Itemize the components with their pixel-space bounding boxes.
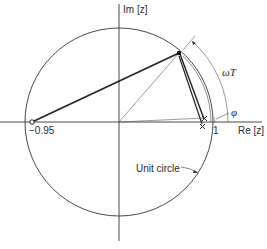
phi-arc	[214, 117, 215, 122]
real-axis-label: Re [z]	[238, 125, 264, 136]
one-value-label: 1	[213, 125, 219, 136]
pole-vector-lower	[179, 56, 202, 124]
imag-axis-label: Im [z]	[123, 4, 148, 15]
phi-label: φ	[231, 106, 237, 118]
zero-marker	[30, 120, 34, 124]
pole-vector-upper	[180, 54, 204, 119]
phi-leader	[216, 113, 229, 119]
unit-circle-label: Unit circle	[136, 163, 180, 174]
zero-value-label: −0.95	[29, 125, 55, 136]
pole-marker-lower	[200, 124, 205, 129]
radius-line	[119, 53, 179, 122]
omega-t-label: ωT	[222, 66, 237, 78]
z-plane-diagram: Im [z] Re [z] −0.95 1 ωT φ Unit circle	[0, 0, 267, 249]
evaluation-point	[177, 51, 181, 55]
pole-angle-line	[119, 118, 205, 122]
pole-marker-upper	[202, 116, 207, 121]
zero-vector	[32, 53, 179, 122]
